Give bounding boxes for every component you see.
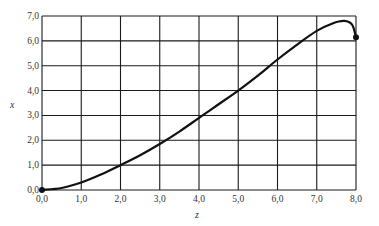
x-tick-label: 5,0 bbox=[232, 194, 244, 204]
x-tick-label: 6,0 bbox=[272, 194, 284, 204]
y-tick-label: 6,0 bbox=[27, 36, 39, 46]
line-chart: 0,01,02,03,04,05,06,07,0 0,01,02,03,04,0… bbox=[0, 0, 379, 226]
y-tick-label: 5,0 bbox=[27, 61, 39, 71]
y-tick-label: 4,0 bbox=[27, 86, 39, 96]
grid-lines bbox=[42, 16, 356, 190]
x-tick-label: 1,0 bbox=[75, 194, 87, 204]
x-tick-label: 3,0 bbox=[154, 194, 166, 204]
x-tick-label: 2,0 bbox=[115, 194, 127, 204]
y-axis-label: x bbox=[9, 99, 15, 110]
x-tick-label: 8,0 bbox=[350, 194, 362, 204]
y-tick-label: 1,0 bbox=[27, 160, 39, 170]
y-tick-label: 3,0 bbox=[27, 110, 39, 120]
y-tick-label: 2,0 bbox=[27, 135, 39, 145]
x-axis-ticks: 0,01,02,03,04,05,06,07,08,0 bbox=[36, 194, 362, 204]
endpoint-marker bbox=[353, 34, 359, 40]
y-axis-ticks: 0,01,02,03,04,05,06,07,0 bbox=[27, 11, 39, 195]
x-tick-label: 0,0 bbox=[36, 194, 48, 204]
x-axis-label: z bbox=[194, 209, 199, 220]
x-tick-label: 7,0 bbox=[311, 194, 323, 204]
endpoint-marker bbox=[39, 187, 45, 193]
y-tick-label: 7,0 bbox=[27, 11, 39, 21]
x-tick-label: 4,0 bbox=[193, 194, 205, 204]
